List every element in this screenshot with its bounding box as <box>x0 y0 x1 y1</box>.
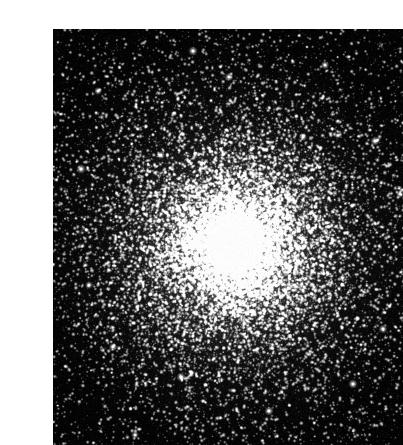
globular-cluster-image: Grayscale astronomical image of a globul… <box>53 29 403 445</box>
starfield-canvas <box>53 29 403 445</box>
image-viewer: Grayscale astronomical image of a globul… <box>0 0 403 445</box>
